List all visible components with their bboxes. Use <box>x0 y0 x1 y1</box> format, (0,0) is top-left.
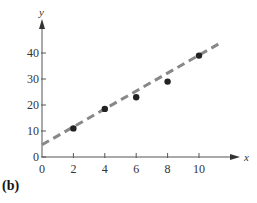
y-tick-label: 30 <box>27 72 39 86</box>
y-tick-label: 40 <box>27 46 39 60</box>
x-tick-label: 2 <box>70 162 76 176</box>
data-point <box>133 94 139 100</box>
x-axis-label: x <box>243 151 249 163</box>
x-axis-arrow-icon <box>230 154 240 160</box>
data-point <box>196 52 202 58</box>
y-tick-label: 0 <box>33 150 39 164</box>
data-point <box>102 106 108 112</box>
x-tick-label: 8 <box>165 162 171 176</box>
y-tick-label: 20 <box>27 98 39 112</box>
data-point <box>70 125 76 131</box>
y-axis-label: y <box>38 6 44 18</box>
x-tick-label: 10 <box>193 162 205 176</box>
x-tick-label: 4 <box>102 162 108 176</box>
x-tick-label: 0 <box>39 162 45 176</box>
fit-line <box>42 43 221 145</box>
scatter-chart: xy0246810010203040 <box>0 0 257 203</box>
x-tick-label: 6 <box>133 162 139 176</box>
y-tick-label: 10 <box>27 124 39 138</box>
panel-label: (b) <box>2 178 19 194</box>
data-point <box>164 78 170 84</box>
y-axis-arrow-icon <box>39 19 45 29</box>
